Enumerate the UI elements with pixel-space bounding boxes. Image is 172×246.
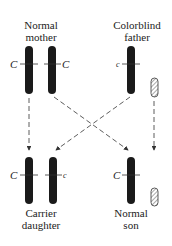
father-x-allele: c	[116, 60, 120, 69]
arrow-mother-to-son	[54, 97, 128, 150]
son-x-chromosome	[127, 157, 135, 204]
father-y-chromosome	[151, 78, 158, 97]
daughter-x-chromosome-left	[25, 157, 33, 204]
mother-x-chromosome-left	[25, 46, 33, 94]
daughter-x-chromosome-right	[49, 157, 57, 204]
father-x-chromosome	[127, 46, 135, 94]
daughter-right-allele: c	[63, 171, 67, 180]
inheritance-diagram: C C c C c C	[0, 0, 172, 246]
arrow-father-to-daughter	[56, 97, 130, 150]
mother-left-allele: C	[10, 58, 18, 70]
daughter-left-allele: C	[10, 169, 18, 181]
son-y-chromosome	[151, 188, 158, 206]
son-x-allele: C	[113, 169, 121, 181]
mother-x-chromosome-right	[48, 46, 56, 94]
mother-right-allele: C	[62, 58, 70, 70]
